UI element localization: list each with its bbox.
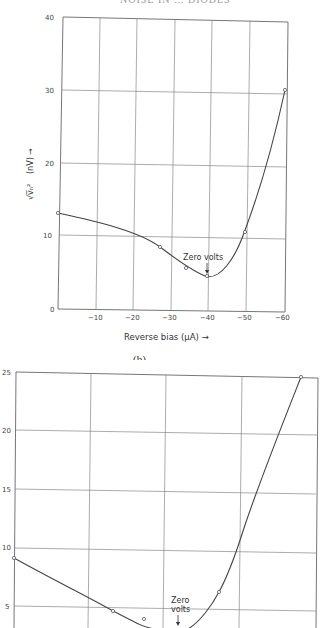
zero-volts-annotation: Zero volts xyxy=(183,253,223,262)
y-axis-label: √v̅ₙ² (nV) → xyxy=(26,148,35,200)
annotation-arrowhead-icon xyxy=(176,622,180,626)
plot-frame-bottom xyxy=(14,372,318,628)
subfigure-label: (b) xyxy=(133,353,146,360)
y-tick-5: 5 xyxy=(5,603,9,611)
data-curve-top xyxy=(58,90,285,277)
x-gridlines xyxy=(88,374,242,628)
x-tick-minus10: −10 xyxy=(88,314,103,322)
data-points-bottom xyxy=(12,375,302,620)
y-tick-10: 10 xyxy=(2,544,11,552)
zero-volts-annotation-line1: Zero xyxy=(171,596,190,605)
y-tick-25: 25 xyxy=(2,369,11,377)
chart-bottom: 25 20 15 10 5 Zero volts xyxy=(0,360,336,628)
y-tick-20: 20 xyxy=(45,160,54,168)
x-tick-minus40: −40 xyxy=(200,314,215,322)
x-tick-minus50: −50 xyxy=(237,314,252,322)
y-tick-0: 0 xyxy=(50,306,54,314)
y-tick-40: 40 xyxy=(45,14,54,22)
y-axis-symbol: √v̅ₙ² xyxy=(26,184,35,200)
x-tick-minus60: −60 xyxy=(275,314,290,322)
y-tick-10: 10 xyxy=(43,232,52,240)
y-gridlines xyxy=(14,430,317,611)
y-tick-30: 30 xyxy=(45,87,54,95)
x-axis-label: Reverse bias (μA) → xyxy=(124,332,209,342)
y-axis-unit: (nV) → xyxy=(26,148,35,174)
y-tick-15: 15 xyxy=(2,486,11,494)
data-curve-bottom xyxy=(14,377,301,628)
zero-volts-annotation-line2: volts xyxy=(171,605,190,614)
x-tick-minus30: −30 xyxy=(162,314,177,322)
chart-top: 40 30 20 10 0 −10 −20 −30 −40 −50 −60 √v… xyxy=(0,0,336,360)
x-gridlines xyxy=(96,18,250,311)
y-tick-20: 20 xyxy=(2,427,11,435)
x-tick-minus20: −20 xyxy=(125,314,140,322)
